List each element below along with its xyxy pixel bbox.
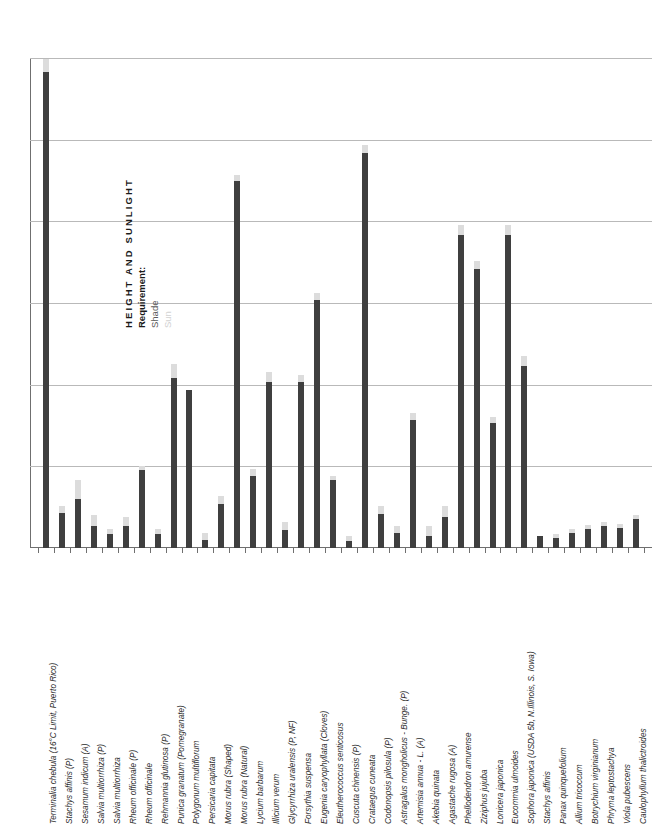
bar-segment-shade bbox=[123, 526, 129, 548]
bar-segment-sun bbox=[474, 261, 480, 269]
bar-group bbox=[474, 261, 480, 548]
x-axis-label: Phryma leptostachya bbox=[607, 748, 616, 824]
x-axis-label: Rehmannia glutinosa (P) bbox=[161, 734, 170, 824]
bar-group bbox=[314, 293, 320, 548]
bar-group bbox=[601, 522, 607, 548]
bar-group bbox=[107, 529, 113, 548]
bar-segment-sun bbox=[91, 515, 97, 526]
x-axis-label: Salvia multiorrhiza (P) bbox=[97, 744, 106, 824]
bar-segment-shade bbox=[266, 382, 272, 548]
x-axis-label: Morus rubra (Natural) bbox=[240, 746, 249, 824]
x-axis-label: Allium tricoccum bbox=[575, 764, 584, 824]
x-axis-label: Illicium verum bbox=[272, 774, 281, 824]
x-axis-label: Crataegus cuneata bbox=[368, 755, 377, 824]
bar-segment-shade bbox=[617, 528, 623, 548]
bar-group bbox=[330, 476, 336, 548]
x-axis-label: Eugenia caryophyllata (Cloves) bbox=[320, 711, 329, 824]
bar-segment-shade bbox=[569, 533, 575, 548]
x-axis-label: Botrychium virginianum bbox=[591, 739, 600, 824]
bar-segment-sun bbox=[59, 506, 65, 513]
bar-segment-shade bbox=[75, 499, 81, 548]
bar-segment-shade bbox=[505, 235, 511, 548]
x-axis-label: Codonopsis pilosula (P) bbox=[384, 738, 393, 824]
bar-segment-shade bbox=[442, 517, 448, 548]
bar-segment-shade bbox=[458, 235, 464, 548]
bar-segment-sun bbox=[43, 59, 49, 71]
bar-segment-shade bbox=[585, 529, 591, 548]
bar-group bbox=[282, 522, 288, 548]
bar-segment-shade bbox=[282, 530, 288, 548]
bar-group bbox=[617, 524, 623, 548]
bar-group bbox=[171, 364, 177, 548]
bar-group bbox=[410, 413, 416, 548]
bar-segment-sun bbox=[410, 413, 416, 420]
x-axis-label: Astragalus mongholicus - Bunge. (P) bbox=[400, 691, 409, 824]
bar-segment-shade bbox=[202, 540, 208, 548]
x-axis-label: Eleutherococcus senticosus bbox=[336, 723, 345, 825]
x-axis-label: Sesamum indicum (A) bbox=[81, 743, 90, 824]
x-axis-label: Caulophyllum thalictroides bbox=[639, 728, 648, 824]
bar-segment-shade bbox=[362, 153, 368, 548]
legend-subtitle: Requirement: bbox=[135, 178, 148, 328]
bar-group bbox=[442, 506, 448, 548]
bar-segment-sun bbox=[250, 469, 256, 476]
bar-group bbox=[186, 390, 192, 548]
bar-segment-sun bbox=[314, 293, 320, 300]
bar-segment-sun bbox=[442, 506, 448, 517]
bar-group bbox=[59, 506, 65, 548]
bar-group bbox=[394, 526, 400, 548]
x-axis-label: Lycium barbarum bbox=[256, 761, 265, 824]
x-axis-label: Rheum officinale (P) bbox=[129, 750, 138, 824]
x-axis-label: Artemisia annua - L. (A) bbox=[416, 738, 425, 824]
bar-segment-shade bbox=[43, 72, 49, 548]
bar-segment-shade bbox=[298, 382, 304, 548]
x-axis-label: Viola pubescens bbox=[623, 764, 632, 824]
bar-segment-shade bbox=[394, 533, 400, 548]
x-axis-label: Persicaria capitata bbox=[208, 757, 217, 824]
bar-group bbox=[505, 225, 511, 548]
bar-segment-sun bbox=[521, 356, 527, 366]
bar-group bbox=[569, 529, 575, 548]
bar-segment-sun bbox=[458, 225, 464, 235]
legend-item-sun: Sun bbox=[161, 178, 174, 328]
bar-group bbox=[585, 525, 591, 548]
bar-segment-sun bbox=[75, 480, 81, 499]
bar-segment-shade bbox=[59, 513, 65, 548]
bar-group bbox=[553, 534, 559, 548]
x-axis-label: Phellodendron amurense bbox=[464, 733, 473, 825]
bar-segment-shade bbox=[91, 526, 97, 548]
x-axis-label: Rheum officinale bbox=[145, 763, 154, 824]
bar-segment-sun bbox=[426, 526, 432, 536]
bar-group bbox=[346, 536, 352, 548]
bar-segment-sun bbox=[298, 375, 304, 382]
bar-segment-shade bbox=[186, 390, 192, 548]
bar-segment-shade bbox=[521, 366, 527, 548]
bar-group bbox=[633, 515, 639, 548]
x-axis-label: Eucommia ulmoides bbox=[511, 750, 520, 824]
bar-segment-sun bbox=[505, 225, 511, 235]
bar-segment-shade bbox=[537, 536, 543, 548]
bar-segment-shade bbox=[490, 423, 496, 548]
x-axis-label: Punica granatum (Pomegranate) bbox=[177, 705, 186, 824]
bar-group bbox=[537, 536, 543, 548]
x-axis-label: Salvia multiorrhiza bbox=[113, 757, 122, 824]
chart-legend: HEIGHT AND SUNLIGHT Requirement: Shade S… bbox=[122, 168, 272, 338]
x-axis-label: Stachys affinis bbox=[543, 771, 552, 824]
bar-group bbox=[362, 145, 368, 548]
x-axis-label: Panax quinquefolium bbox=[559, 748, 568, 824]
bar-segment-sun bbox=[394, 526, 400, 533]
x-axis-label: Forsythia suspensa bbox=[304, 753, 313, 824]
bar-segment-shade bbox=[155, 534, 161, 548]
bar-segment-shade bbox=[139, 470, 145, 548]
bar-segment-shade bbox=[171, 378, 177, 548]
bar-segment-sun bbox=[362, 145, 368, 153]
bar-group bbox=[490, 417, 496, 548]
bar-group bbox=[218, 496, 224, 548]
x-axis-label: Lonicera japonica bbox=[496, 760, 505, 824]
bar-group bbox=[521, 356, 527, 548]
bar-segment-shade bbox=[601, 526, 607, 548]
x-axis-labels: Terminalia chebula (16°C Limit, Puerto R… bbox=[30, 552, 652, 832]
bar-segment-sun bbox=[202, 533, 208, 540]
bar-segment-shade bbox=[426, 536, 432, 548]
x-axis-label: Cuscuta chinensis (P) bbox=[352, 744, 361, 824]
